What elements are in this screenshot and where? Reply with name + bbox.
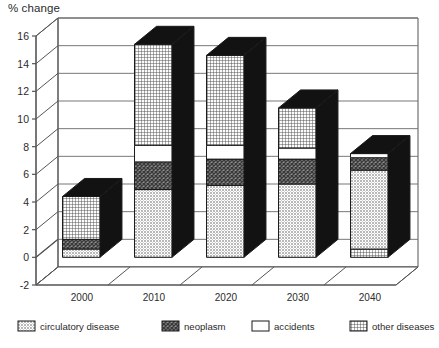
- legend-item[interactable]: accidents: [252, 321, 315, 332]
- bar-segment: [63, 249, 100, 257]
- legend-label: neoplasm: [184, 321, 226, 332]
- y-axis-label: 10: [17, 113, 29, 125]
- bar-segment: [207, 55, 244, 145]
- bar-segment: [135, 44, 172, 145]
- bar-segment: [135, 190, 172, 258]
- legend-swatch: [252, 321, 269, 331]
- legend-swatch: [350, 321, 367, 331]
- axis-depth-line: [36, 73, 58, 91]
- legend-swatch: [162, 321, 179, 331]
- y-axis-label: -2: [20, 279, 29, 291]
- axis-depth-line: [36, 101, 58, 119]
- y-axis-label: 2: [23, 224, 29, 236]
- y-axis-label: 8: [23, 141, 29, 153]
- bar-2040: [351, 136, 410, 258]
- bar-side-face: [244, 37, 266, 257]
- bar-segment: [207, 185, 244, 257]
- y-axis-label: 12: [17, 85, 29, 97]
- bar-segment: [351, 158, 388, 170]
- bar-segment: [351, 170, 388, 249]
- y-axis-label: 16: [17, 30, 29, 42]
- axis-depth-line: [36, 129, 58, 147]
- y-axis-label: 6: [23, 168, 29, 180]
- axis-depth-line: [36, 212, 58, 230]
- chart-floor: [36, 267, 418, 285]
- chart-plot-svg: -2024681012141620002010202020302040circu…: [0, 0, 439, 348]
- bar-segment: [279, 148, 316, 159]
- bar-segment: [207, 159, 244, 185]
- legend-swatch: [18, 321, 35, 331]
- bar-2020: [207, 37, 266, 257]
- axis-depth-line: [36, 46, 58, 64]
- bar-2030: [279, 90, 338, 257]
- bar-segment: [135, 145, 172, 162]
- legend-label: other diseases: [372, 321, 435, 332]
- bar-segment: [279, 108, 316, 148]
- bar-segment: [207, 145, 244, 159]
- axis-depth-line: [36, 184, 58, 202]
- legend-item[interactable]: other diseases: [350, 321, 435, 332]
- bar-2010: [135, 26, 194, 257]
- bar-segment: [63, 239, 100, 249]
- bar-segment: [351, 154, 388, 158]
- legend-item[interactable]: neoplasm: [162, 321, 226, 332]
- chart-container: % change: [0, 0, 439, 348]
- legend-item[interactable]: circulatory disease: [18, 321, 119, 332]
- x-axis-label: 2040: [359, 292, 382, 303]
- legend-label: circulatory disease: [40, 321, 119, 332]
- bar-side-face: [316, 90, 338, 257]
- x-axis-label: 2020: [215, 292, 238, 303]
- bar-segment: [279, 159, 316, 184]
- bar-segment: [279, 184, 316, 257]
- bar-segment: [351, 249, 388, 257]
- x-axis-label: 2010: [143, 292, 166, 303]
- y-axis-label: 0: [23, 251, 29, 263]
- y-axis-label: 4: [23, 196, 29, 208]
- chart-left-wall: [36, 18, 58, 285]
- zero-line: [36, 239, 58, 257]
- bar-side-face: [172, 26, 194, 257]
- bar-segment: [135, 162, 172, 190]
- x-axis-label: 2030: [287, 292, 310, 303]
- legend-label: accidents: [274, 321, 315, 332]
- bar-2000: [63, 178, 122, 257]
- bar-side-face: [388, 136, 410, 258]
- axis-depth-line: [36, 156, 58, 174]
- x-axis-label: 2000: [71, 292, 94, 303]
- y-axis-label: 14: [17, 58, 29, 70]
- bar-segment: [63, 196, 100, 239]
